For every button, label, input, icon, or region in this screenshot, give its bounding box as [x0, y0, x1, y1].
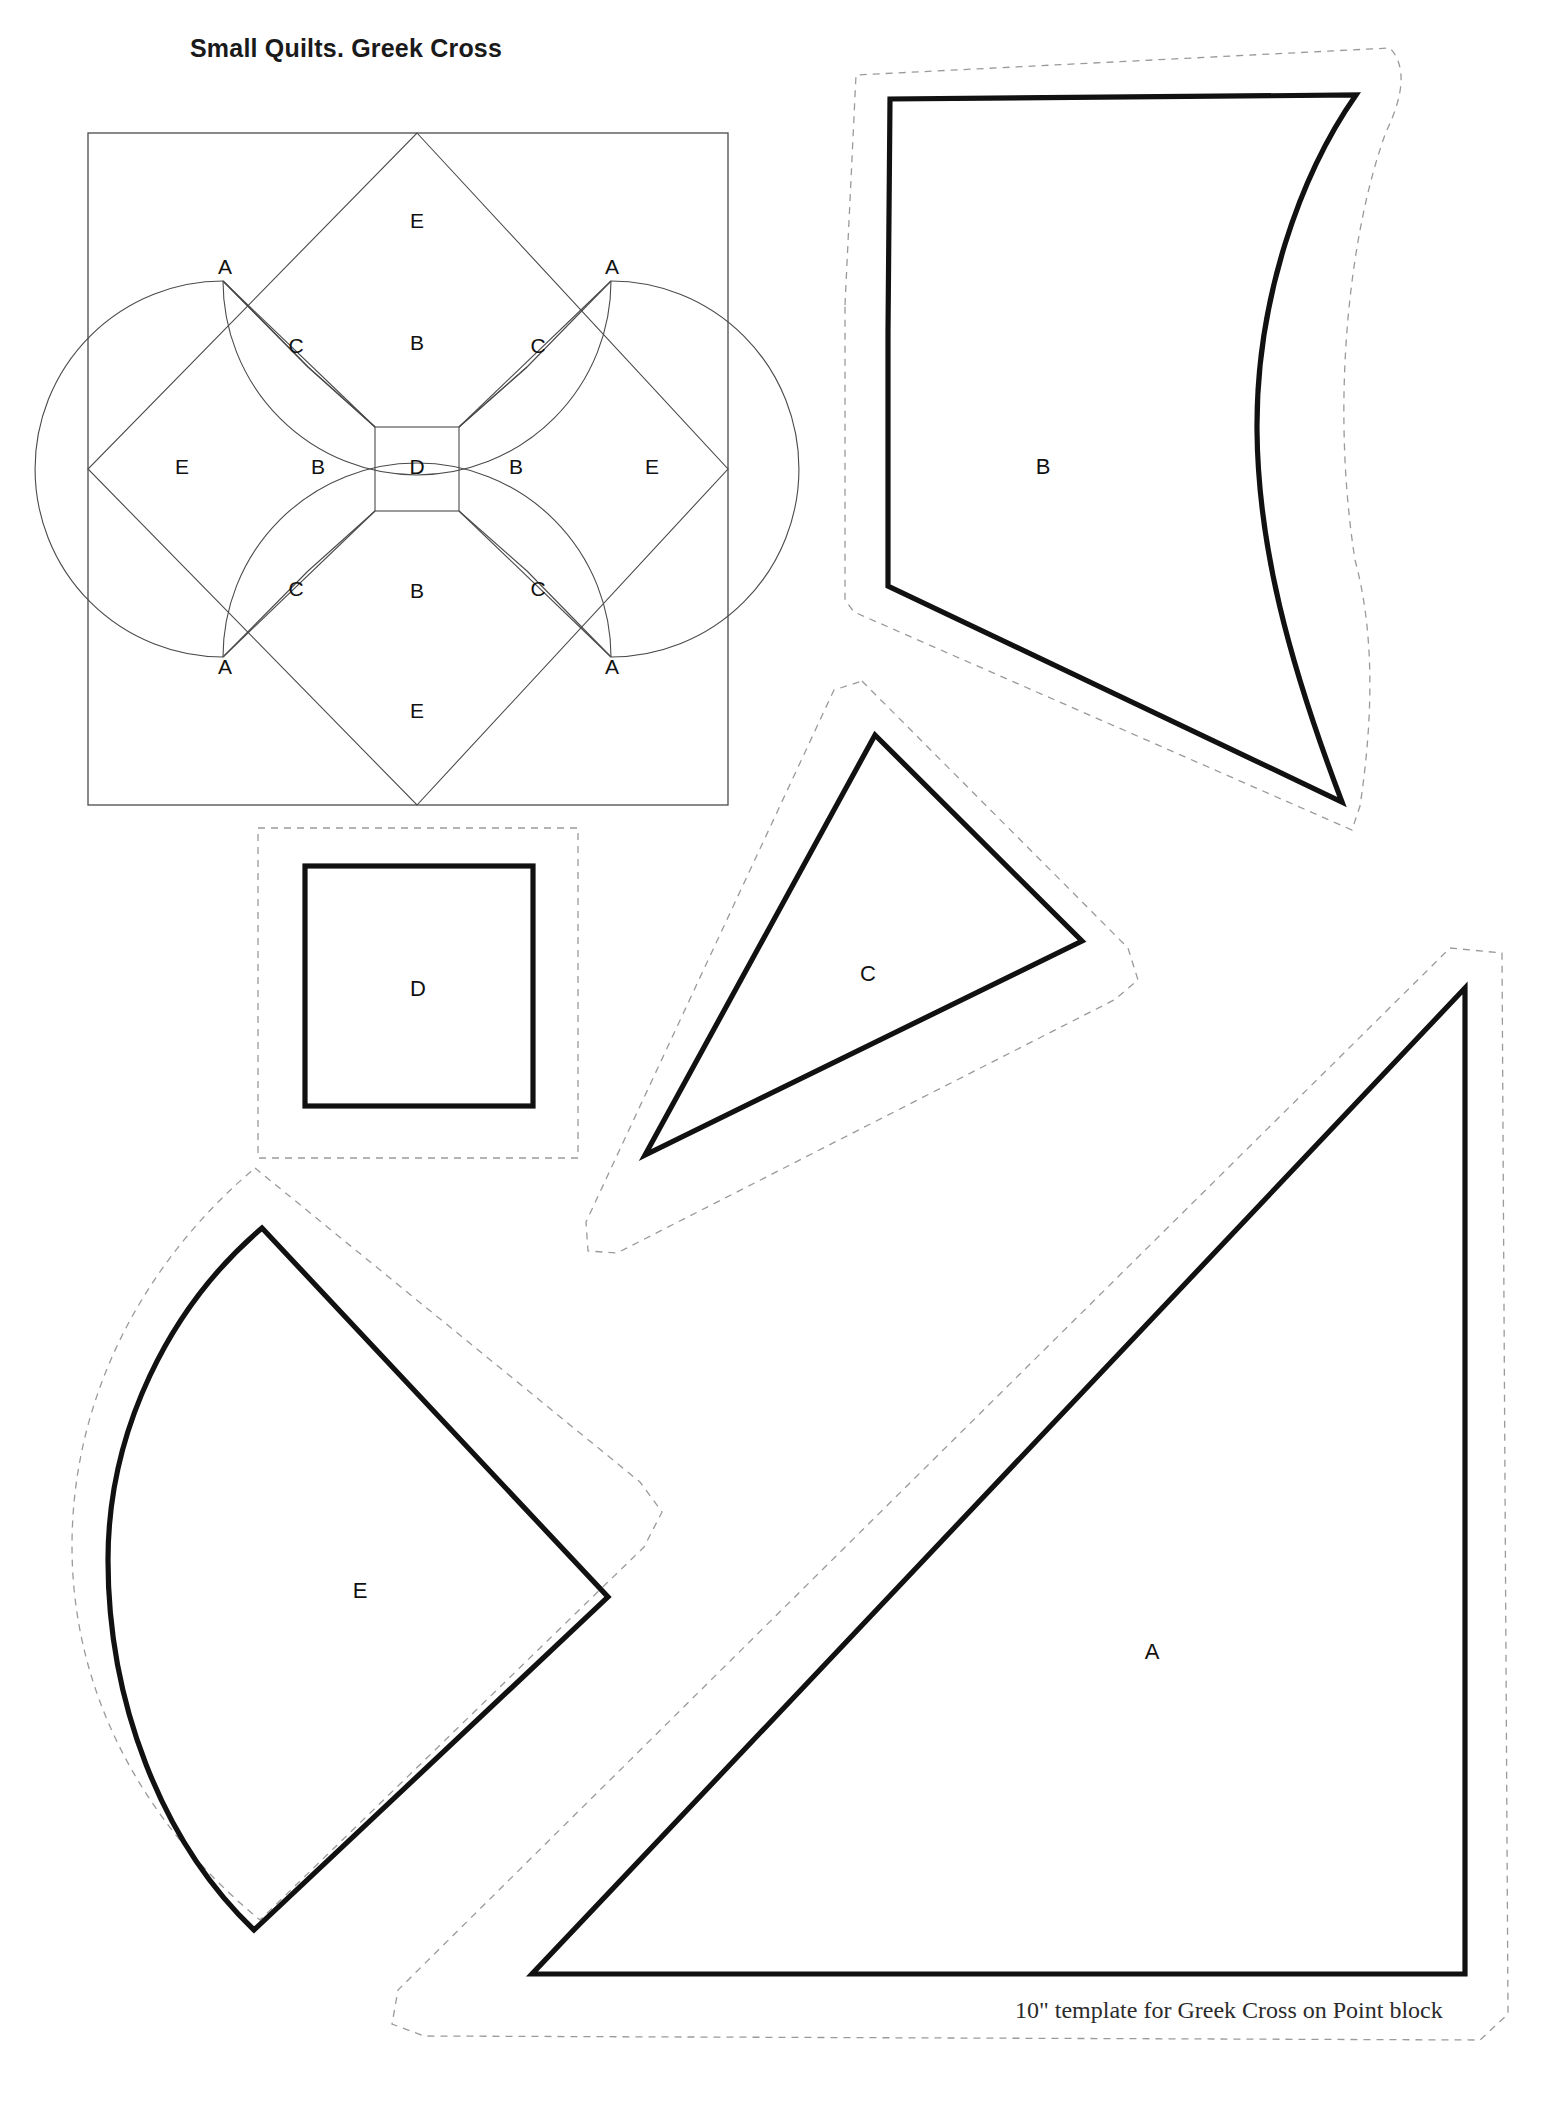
template-b-label: B: [1036, 454, 1051, 479]
block-label-c-lower-right: C: [530, 577, 545, 600]
template-c-group: C: [586, 681, 1138, 1253]
block-label-c-upper-left: C: [288, 334, 303, 357]
e-right-arc: [611, 281, 799, 657]
template-c-outline: [645, 735, 1082, 1155]
block-label-a-bottom-right: A: [605, 655, 619, 678]
template-d-label: D: [410, 976, 426, 1001]
template-b-group: B: [845, 48, 1401, 830]
b-top-right-edge: [459, 367, 527, 427]
block-label-e-left: E: [175, 455, 189, 478]
block-piece-labels: A A A A E E E E C C C C B B B B D: [175, 209, 659, 722]
e-left-arc: [35, 281, 223, 657]
template-d-group: D: [258, 828, 578, 1158]
block-label-b-right: B: [509, 455, 523, 478]
template-e-seam-allowance: [72, 1168, 662, 1920]
block-label-b-left: B: [311, 455, 325, 478]
block-diagram-layer: A A A A E E E E C C C C B B B B D B: [0, 0, 1542, 2102]
block-label-d-center: D: [409, 455, 424, 478]
template-a-outline: [532, 988, 1465, 1974]
block-label-a-bottom-left: A: [218, 655, 232, 678]
e-top-arc: [223, 281, 611, 475]
template-a-label: A: [1145, 1639, 1160, 1664]
template-a-group: A: [392, 948, 1508, 2040]
template-e-label: E: [353, 1578, 368, 1603]
template-c-label: C: [860, 961, 876, 986]
block-label-b-top: B: [410, 331, 424, 354]
block-label-a-top-left: A: [218, 255, 232, 278]
template-b-outline: [888, 95, 1356, 802]
e-bottom-arc: [223, 463, 611, 657]
b-top-left-edge: [308, 367, 375, 427]
block-label-c-lower-left: C: [288, 577, 303, 600]
seam-d-se: [459, 511, 527, 571]
template-sheet-page: Small Quilts. Greek Cross: [0, 0, 1542, 2102]
block-label-e-top: E: [410, 209, 424, 232]
sheet-caption: 10" template for Greek Cross on Point bl…: [1015, 1997, 1443, 2024]
block-label-b-bottom: B: [410, 579, 424, 602]
template-a-seam-allowance: [392, 948, 1508, 2040]
block-label-c-upper-right: C: [530, 334, 545, 357]
block-label-e-right: E: [645, 455, 659, 478]
block-label-a-top-right: A: [605, 255, 619, 278]
block-label-e-bottom: E: [410, 699, 424, 722]
